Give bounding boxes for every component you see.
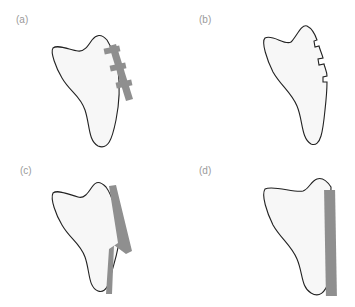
bone-outline <box>264 26 327 145</box>
bone-outline <box>264 178 331 294</box>
bone-with-bent-plate <box>0 153 177 307</box>
bone-with-screwed-plate <box>0 0 177 153</box>
panel-d: (d) <box>177 153 354 306</box>
panel-a: (a) <box>0 0 177 153</box>
panel-b: (b) <box>177 0 354 153</box>
panel-c: (c) <box>0 153 177 306</box>
bone-with-notches <box>177 0 354 153</box>
straight-plate <box>324 190 337 296</box>
bone-with-straight-plate <box>177 153 354 307</box>
